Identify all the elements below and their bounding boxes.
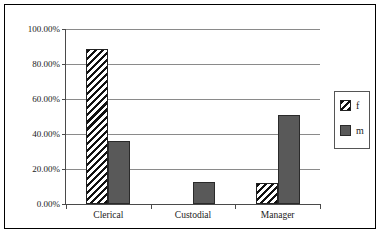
chart-legend: f m (334, 91, 370, 149)
y-axis-label: 0.00% (37, 200, 60, 209)
x-axis-tick (235, 204, 236, 209)
solid-swatch-icon (340, 125, 351, 136)
bar-manager-m (278, 115, 300, 204)
y-axis-tick (62, 29, 66, 30)
y-axis-label: 20.00% (32, 165, 60, 174)
gridline (66, 29, 320, 30)
legend-item-f: f (340, 100, 359, 111)
y-axis-tick (62, 64, 66, 65)
y-axis-tick (62, 134, 66, 135)
bar-clerical-f (86, 49, 108, 204)
x-axis-tick (320, 204, 321, 209)
x-axis-tick (151, 204, 152, 209)
y-axis-tick (62, 169, 66, 170)
bar-manager-f (256, 183, 278, 204)
y-axis-label: 40.00% (32, 130, 60, 139)
hatch-swatch-icon (340, 100, 351, 111)
legend-label: m (356, 126, 364, 136)
plot-box: 0.00%20.00%40.00%60.00%80.00%100.00%Cler… (65, 29, 320, 205)
x-axis-label: Custodial (175, 211, 211, 221)
x-axis-label: Manager (261, 211, 295, 221)
legend-label: f (356, 101, 359, 111)
plot-area: 0.00%20.00%40.00%60.00%80.00%100.00%Cler… (65, 25, 319, 204)
y-axis-tick (62, 99, 66, 100)
legend-item-m: m (340, 125, 364, 136)
chart-frame: 0.00%20.00%40.00%60.00%80.00%100.00%Cler… (4, 4, 376, 229)
bar-clerical-m (108, 141, 130, 204)
x-axis-label: Clerical (93, 211, 123, 221)
x-axis-tick (66, 204, 67, 209)
y-axis-label: 100.00% (28, 25, 60, 34)
y-axis-label: 60.00% (32, 95, 60, 104)
bar-custodial-m (193, 182, 215, 204)
y-axis-label: 80.00% (32, 60, 60, 69)
